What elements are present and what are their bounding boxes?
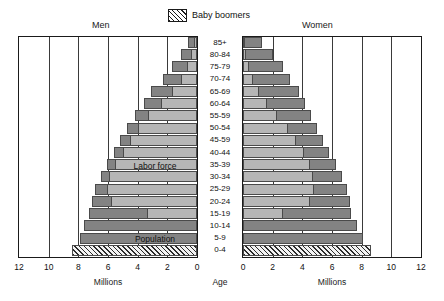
age-label-45-59: 45-59 (198, 135, 242, 144)
bar-total-0-4 (243, 245, 371, 256)
legend-label-baby-boomers: Baby boomers (192, 10, 250, 20)
age-label-25-29: 25-29 (198, 184, 242, 193)
bar-labor-65-69 (243, 86, 259, 97)
axis-tick-0: 0 (241, 262, 246, 272)
bar-row (243, 49, 421, 60)
men-axis-unit-label: Millions (94, 277, 122, 287)
bar-labor-30-34 (243, 171, 313, 182)
age-label-75-79: 75-79 (198, 62, 242, 71)
age-group-label-column: 85+80-8475-7970-7465-6960-6455-5950-5445… (198, 36, 242, 258)
age-label-30-34: 30-34 (198, 172, 242, 181)
axis-tick-4: 4 (300, 262, 305, 272)
axis-tick-12: 12 (14, 262, 23, 272)
bar-labor-70-74 (243, 74, 253, 85)
axis-tick-6: 6 (106, 262, 111, 272)
bar-labor-40-44 (243, 147, 304, 158)
bar-row (243, 184, 421, 195)
bar-labor-75-79 (243, 61, 249, 72)
bar-row (243, 208, 421, 219)
bar-total-75-79 (243, 61, 283, 72)
bar-row (243, 159, 421, 170)
age-label-15-19: 15-19 (198, 209, 242, 218)
bar-total-80-84 (243, 49, 273, 60)
age-label-35-39: 35-39 (198, 160, 242, 169)
axis-tick-4: 4 (135, 262, 140, 272)
annotation-labor-force: Labor force (134, 161, 177, 171)
bar-row (243, 110, 421, 121)
men-annotations: Labor forcePopulation (19, 37, 197, 257)
bar-row (243, 123, 421, 134)
bar-labor-60-64 (243, 98, 267, 109)
axis-tick-6: 6 (330, 262, 335, 272)
age-label-10-14: 10-14 (198, 221, 242, 230)
bar-row (243, 61, 421, 72)
axis-tick-2: 2 (165, 262, 170, 272)
bar-labor-45-59 (243, 135, 296, 146)
bar-row (243, 245, 421, 256)
bar-total-5-9 (243, 233, 363, 244)
women-plot-area (242, 36, 422, 258)
bar-total-10-14 (243, 220, 357, 231)
chart-legend: Baby boomers (168, 8, 250, 22)
bar-labor-55-59 (243, 110, 277, 121)
bar-row (243, 74, 421, 85)
baby-boomers-hatch-swatch-icon (168, 9, 187, 22)
annotation-population: Population (135, 234, 175, 244)
men-panel-title: Men (92, 20, 110, 30)
women-axis-unit-label: Millions (318, 277, 346, 287)
age-label-65-69: 65-69 (198, 87, 242, 96)
age-label-20-24: 20-24 (198, 197, 242, 206)
axis-tick-12: 12 (416, 262, 425, 272)
men-plot-area: Labor forcePopulation (18, 36, 198, 258)
axis-tick-10: 10 (387, 262, 396, 272)
bar-labor-35-39 (243, 159, 310, 170)
axis-tick-2: 2 (270, 262, 275, 272)
age-label-60-64: 60-64 (198, 99, 242, 108)
bar-total-85+ (243, 37, 262, 48)
axis-tick-8: 8 (359, 262, 364, 272)
bar-row (243, 196, 421, 207)
age-axis-label: Age (212, 277, 227, 287)
axis-tick-0: 0 (195, 262, 200, 272)
age-label-40-44: 40-44 (198, 148, 242, 157)
bar-labor-25-29 (243, 184, 314, 195)
age-label-50-54: 50-54 (198, 123, 242, 132)
bar-row (243, 135, 421, 146)
bar-row (243, 86, 421, 97)
bar-labor-15-19 (243, 208, 283, 219)
bar-labor-85+ (243, 37, 245, 48)
bar-row (243, 98, 421, 109)
bar-row (243, 233, 421, 244)
axis-tick-8: 8 (76, 262, 81, 272)
age-label-55-59: 55-59 (198, 111, 242, 120)
age-label-0-4: 0-4 (198, 245, 242, 254)
age-label-80-84: 80-84 (198, 50, 242, 59)
women-panel-title: Women (302, 20, 333, 30)
bar-labor-80-84 (243, 49, 246, 60)
bar-row (243, 37, 421, 48)
age-label-5-9: 5-9 (198, 233, 242, 242)
bar-row (243, 171, 421, 182)
bar-row (243, 220, 421, 231)
axis-tick-10: 10 (44, 262, 53, 272)
age-label-85+: 85+ (198, 38, 242, 47)
age-label-70-74: 70-74 (198, 74, 242, 83)
women-bars (243, 37, 421, 257)
population-pyramid-chart: Baby boomers Men Women Labor forcePopula… (0, 0, 444, 301)
bar-row (243, 147, 421, 158)
bar-labor-20-24 (243, 196, 310, 207)
bar-labor-50-54 (243, 123, 288, 134)
